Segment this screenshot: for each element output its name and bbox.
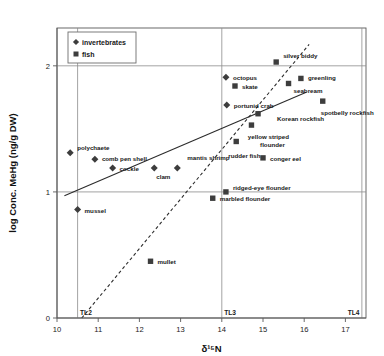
y-tick-label-0: 0 (46, 314, 50, 323)
datalabel-portunid-crab: portunid crab (234, 102, 274, 109)
datapoint-seabream (286, 81, 291, 86)
datalabel-comb-pen-shell: comb pen shell (102, 155, 147, 162)
datalabel-marbled-flounder: marbled flounder (220, 195, 271, 202)
chart-canvas: 0121011121314151617TL2TL3TL4δ¹⁵Nlog Conc… (0, 0, 384, 356)
legend: invertebratesfish (68, 32, 136, 63)
datalabel-clam: clam (156, 173, 171, 180)
datapoint-marbled-flounder (210, 196, 215, 201)
x-tick-label-13: 13 (176, 325, 184, 334)
x-tick-label-12: 12 (135, 325, 143, 334)
trophic-label-TL2: TL2 (80, 309, 92, 316)
datapoint-skate (232, 83, 237, 88)
datapoint-korean-rockfish (255, 111, 260, 116)
trophic-label-TL3: TL3 (224, 309, 236, 316)
datalabel-cockle: cockle (120, 165, 140, 172)
plot-area-border (57, 28, 366, 318)
x-tick-label-15: 15 (259, 325, 267, 334)
datapoint-ridged-eye-flounder (223, 189, 228, 194)
datalabel-ridged-eye-flounder: ridged-eye flounder (233, 184, 291, 191)
datapoint-silver-biddy (273, 59, 278, 64)
datapoint-rudder-fish (234, 139, 239, 144)
legend-marker-fish (74, 52, 79, 57)
y-tick-label-2: 2 (46, 62, 50, 71)
datalabel-mullet: mullet (158, 258, 176, 265)
x-tick-label-10: 10 (53, 325, 61, 334)
datapoint-conger-eel (260, 155, 265, 160)
legend-box (68, 32, 136, 63)
datalabel-mantis-shrimp: mantis shrimp (187, 154, 230, 161)
trophic-label-TL4: TL4 (348, 309, 360, 316)
y-axis-title: log Conc. MeHg (ng/g DW) (7, 113, 18, 232)
datalabel-spotbelly-rockfish: spotbelly rockfish (321, 109, 374, 116)
datapoint-mullet (148, 259, 153, 264)
datalabel-korean-rockfish: Korean rockfish (277, 115, 324, 122)
methylmercury-trophic-scatter-chart: 0121011121314151617TL2TL3TL4δ¹⁵Nlog Conc… (0, 0, 384, 356)
datalabel-polychaete: polychaete (77, 144, 110, 151)
x-tick-label-16: 16 (300, 325, 308, 334)
datalabel-octopus: octopus (233, 74, 258, 81)
datalabel-conger-eel: conger eel (270, 155, 301, 162)
x-tick-label-17: 17 (341, 325, 349, 334)
datapoint-spotbelly-rockfish (320, 98, 325, 103)
legend-label-fish: fish (82, 51, 94, 58)
datalabel-skate: skate (242, 83, 258, 90)
datalabel-silver-biddy: silver biddy (283, 52, 318, 59)
datalabel-mussel: mussel (85, 207, 107, 214)
y-tick-label-1: 1 (46, 188, 50, 197)
datalabel-rudder-fish: rudder fish (228, 152, 261, 159)
datapoint-yellow-striped-flounder (249, 122, 254, 127)
legend-label-invertebrates: invertebrates (82, 39, 126, 46)
datalabel-greenling: greenling (308, 74, 336, 81)
x-tick-label-11: 11 (94, 325, 102, 334)
x-axis-title: δ¹⁵N (201, 343, 221, 354)
datapoint-greenling (298, 76, 303, 81)
datalabel-seabream: seabream (294, 87, 323, 94)
x-tick-label-14: 14 (218, 325, 226, 334)
